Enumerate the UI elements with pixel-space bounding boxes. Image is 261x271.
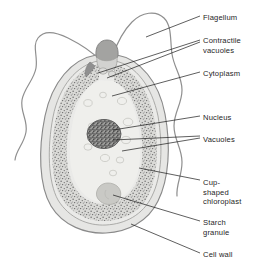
- label-flagellum: Flagellum: [203, 13, 237, 23]
- label-cytoplasm: Cytoplasm: [203, 69, 240, 79]
- label-starch-granule: Starch granule: [203, 218, 229, 237]
- label-layer: Flagellum Contractile vacuoles Cytoplasm…: [0, 0, 261, 271]
- euglena-diagram-figure: Flagellum Contractile vacuoles Cytoplasm…: [0, 0, 261, 271]
- label-cup-shaped-chloroplast: Cup- shaped chloroplast: [203, 178, 241, 207]
- label-cell-wall: Cell wall: [203, 250, 233, 260]
- label-vacuoles: Vacuoles: [203, 135, 235, 145]
- label-contractile-vacuoles: Contractile vacuoles: [203, 36, 241, 55]
- label-nucleus: Nucleus: [203, 113, 232, 123]
